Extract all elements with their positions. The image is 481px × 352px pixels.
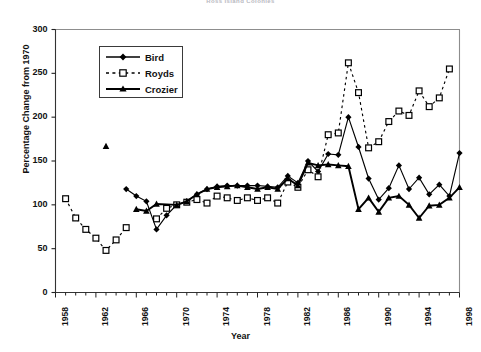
data-point	[113, 237, 119, 243]
y-tick-label: 100	[14, 199, 48, 209]
data-point	[194, 197, 200, 203]
x-tick-label: 1990	[383, 307, 393, 326]
data-point	[83, 226, 89, 232]
data-point	[123, 225, 129, 231]
data-point	[346, 60, 352, 66]
x-tick-label: 1974	[221, 307, 231, 326]
x-tick-label: 1978	[262, 307, 272, 326]
data-point	[355, 144, 361, 150]
data-point	[214, 193, 220, 199]
x-tick-label: 1962	[100, 307, 110, 326]
data-point	[356, 90, 362, 96]
x-tick-label: 1966	[140, 307, 150, 326]
data-point	[255, 198, 261, 204]
x-tick-label: 1982	[302, 307, 312, 326]
chart-title: Ross Island Colonies	[0, 0, 481, 4]
data-point	[154, 216, 160, 222]
data-point	[234, 198, 240, 204]
data-point	[265, 195, 271, 201]
data-point	[365, 194, 372, 200]
data-point	[396, 162, 402, 168]
data-point	[204, 200, 210, 206]
data-point	[447, 66, 453, 72]
y-tick-label: 150	[14, 155, 48, 165]
data-point	[366, 145, 372, 151]
data-point	[396, 108, 402, 114]
data-point	[325, 132, 331, 138]
data-point	[366, 175, 372, 181]
data-point	[143, 198, 149, 204]
y-tick-label: 50	[14, 243, 48, 253]
legend-label-crozier: Crozier	[145, 84, 178, 95]
data-point	[164, 205, 170, 211]
x-axis-label: Year	[0, 331, 481, 341]
legend-symbol-royds	[104, 67, 142, 79]
plot-area	[0, 0, 481, 352]
data-point	[426, 104, 432, 110]
legend: Bird Royds Crozier	[99, 46, 183, 98]
y-tick-label: 200	[14, 111, 48, 121]
data-point	[275, 200, 281, 206]
data-point	[103, 248, 109, 254]
legend-symbol-bird	[104, 51, 142, 63]
chart-container: Ross Island Colonies Percentage Change f…	[0, 0, 481, 352]
data-point	[315, 174, 321, 180]
data-point	[245, 195, 251, 201]
data-point	[376, 139, 382, 145]
data-point	[63, 196, 69, 202]
data-point	[416, 88, 422, 94]
data-point	[386, 119, 392, 125]
y-tick-label: 250	[14, 67, 48, 77]
x-tick-label: 1986	[342, 307, 352, 326]
x-tick-label: 1998	[464, 307, 474, 326]
x-tick-label: 1994	[423, 307, 433, 326]
x-tick-label: 1970	[181, 307, 191, 326]
data-point	[406, 113, 412, 119]
x-tick-label: 1958	[60, 307, 70, 326]
y-tick-label: 300	[14, 24, 48, 34]
data-point	[345, 114, 351, 120]
data-point	[335, 152, 341, 158]
data-point	[335, 130, 341, 136]
data-point	[73, 215, 79, 221]
legend-label-bird: Bird	[145, 52, 164, 63]
legend-entry-bird: Bird	[104, 50, 164, 64]
y-tick-label: 0	[14, 287, 48, 297]
data-point	[325, 151, 331, 157]
legend-symbol-crozier	[104, 83, 142, 95]
data-point	[456, 150, 462, 156]
legend-label-royds: Royds	[145, 68, 174, 79]
data-point	[436, 95, 442, 101]
data-point	[456, 184, 463, 190]
data-point	[103, 143, 110, 149]
legend-entry-crozier: Crozier	[104, 82, 178, 96]
data-point	[224, 195, 230, 201]
series-bird	[123, 114, 463, 232]
legend-entry-royds: Royds	[104, 66, 174, 80]
data-point	[93, 235, 99, 241]
